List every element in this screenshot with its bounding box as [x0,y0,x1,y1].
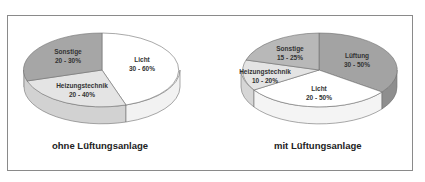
pie-ohne-lueftung [23,33,180,124]
label-licht-left: Licht [134,56,150,63]
caption-ohne-lueftung: ohne Lüftungsanlage [52,140,148,151]
label-heizung-right: Heizungstechnik [239,68,291,76]
range-licht-left: 30 - 60% [129,65,155,72]
range-sonstige-right: 15 - 25% [277,54,303,61]
pie-charts: Licht 30 - 60% Heizungstechnik 20 - 40% … [0,0,425,182]
range-heizung-left: 20 - 40% [69,91,95,98]
label-licht-right: Licht [311,85,327,92]
caption-mit-lueftung: mit Lüftungsanlage [274,140,362,151]
label-lueftung-right: Lüftung [345,52,369,60]
range-heizung-right: 10 - 20% [252,77,278,84]
label-sonstige-left: Sonstige [54,48,82,56]
label-sonstige-right: Sonstige [276,45,304,53]
label-heizung-left: Heizungstechnik [56,82,108,90]
range-lueftung-right: 30 - 50% [344,61,370,68]
range-sonstige-left: 20 - 30% [55,57,81,64]
range-licht-right: 20 - 50% [306,94,332,101]
